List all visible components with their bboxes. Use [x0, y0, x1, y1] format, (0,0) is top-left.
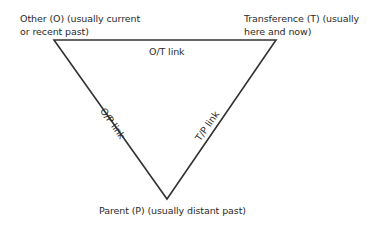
node-parent-label: Parent (P) (usually distant past) [99, 204, 246, 217]
node-transference-label: Transference (T) (usually here and now) [244, 12, 359, 38]
edge-ot-label: O/T link [149, 45, 185, 58]
triangle-outline [54, 40, 276, 199]
node-other-label: Other (O) (usually current or recent pas… [20, 12, 140, 38]
